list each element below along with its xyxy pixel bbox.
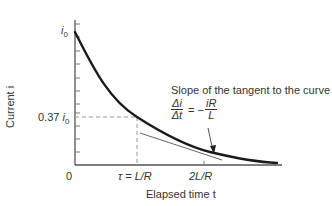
y-tick-i0: i0 [61, 24, 68, 41]
i0-subscript: 0 [63, 30, 67, 39]
x-axis-title: Elapsed time t [146, 188, 216, 200]
fraction-iRL-den: L [205, 110, 217, 121]
chart-plot-area [0, 0, 332, 206]
y-axis-ticks [75, 24, 80, 152]
equals-minus: = − [188, 104, 204, 116]
x-tick-origin: 0 [66, 170, 72, 182]
x-tick-tau: τ = L/R [118, 170, 152, 182]
x-tick-2LR: 2L/R [189, 170, 212, 182]
fraction-delta: Δi Δt [171, 98, 183, 121]
y-tick-037-i0: 0.37 i0 [38, 111, 69, 128]
y037-number: 0.37 [38, 111, 62, 123]
fraction-iRL: iR L [205, 98, 217, 121]
annotation-text: Slope of the tangent to the curve [171, 84, 330, 96]
fraction-delta-den: Δt [171, 110, 183, 121]
y-axis-title: Current i [4, 86, 16, 128]
y037-subscript: 0 [65, 117, 69, 126]
